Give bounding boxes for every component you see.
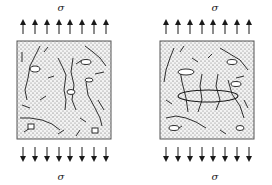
right-panel: σ xyxy=(136,0,272,185)
tension-arrows-top xyxy=(23,22,106,34)
right-specimen-diagram xyxy=(136,0,272,185)
sigma-bottom-label-right: σ xyxy=(205,172,225,182)
tension-arrows-bottom xyxy=(166,147,249,159)
sigma-bottom-label-left: σ xyxy=(51,172,71,182)
tension-arrows-top xyxy=(166,22,249,34)
left-specimen-diagram xyxy=(0,0,136,185)
tension-arrows-bottom xyxy=(23,147,106,159)
left-panel: σ xyxy=(0,0,136,185)
